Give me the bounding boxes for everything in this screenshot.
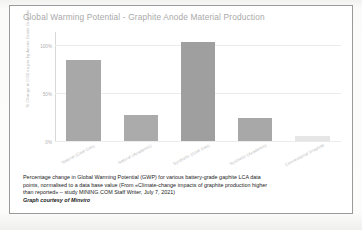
figure-box: Global Warming Potential - Graphite Anod…	[9, 5, 353, 214]
bar	[295, 136, 329, 141]
bar-slot	[227, 31, 284, 141]
plot-area: 0%50%100%	[55, 32, 341, 142]
chart-title: Global Warming Potential - Graphite Anod…	[23, 12, 265, 22]
scanned-page: Global Warming Potential - Graphite Anod…	[0, 0, 362, 230]
x-axis-label: Synthetic (Coal Gas)	[172, 143, 210, 166]
bar-slot	[284, 31, 341, 141]
bar	[238, 118, 272, 141]
bar-slot	[112, 31, 169, 141]
gridline	[55, 141, 341, 142]
bar-series	[55, 31, 341, 141]
caption-line: Percentage change in Global Warming Pote…	[23, 174, 341, 182]
plot-wrapper: % Change in CO2 eq per kg Anode Grade Gr…	[10, 28, 353, 148]
caption-credit: Graph courtesy of Minviro	[23, 197, 341, 205]
y-axis-tick-label: 50%	[43, 92, 52, 97]
y-axis-tick-label: 100%	[40, 44, 52, 49]
caption-line: points, normalised to a data base value …	[23, 182, 341, 190]
figure-caption: Percentage change in Global Warming Pote…	[23, 174, 341, 205]
bar	[124, 115, 158, 141]
y-axis-tick-label: 0%	[45, 140, 52, 145]
y-axis-title: % Change in CO2 eq per kg Anode Grade Gr…	[25, 6, 30, 112]
x-axis-label: Conventional Graphite	[285, 142, 326, 167]
bar-slot	[169, 31, 226, 141]
bar	[181, 42, 215, 141]
bar	[66, 60, 100, 141]
x-axis-label: Natural (Coal Gas)	[60, 143, 95, 165]
bar-slot	[55, 31, 112, 141]
caption-line: than reported» – study MINING.COM Staff …	[23, 189, 341, 197]
x-axis-label: Synthetic (Academic)	[229, 143, 268, 167]
x-axis-label: Natural (Academic)	[117, 143, 153, 165]
